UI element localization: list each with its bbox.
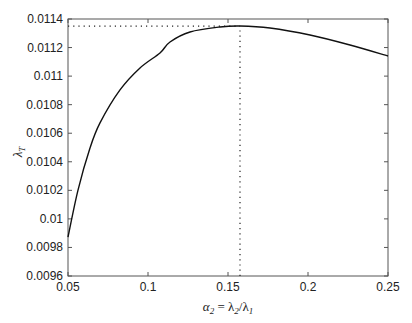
- y-tick-label: 0.01: [40, 212, 64, 226]
- y-axis-label: λT: [10, 146, 27, 159]
- y-tick-label: 0.0106: [26, 126, 63, 140]
- x-tick-label: 0.1: [140, 280, 157, 294]
- y-tick-label: 0.0108: [26, 98, 63, 112]
- y-tick-label: 0.0112: [27, 41, 63, 55]
- y-tick-label: 0.0114: [27, 12, 63, 26]
- y-tick-label: 0.0102: [26, 183, 63, 197]
- y-tick-label: 0.0098: [26, 240, 63, 254]
- line-chart: 0.050.10.150.20.25 0.00960.00980.010.010…: [0, 0, 412, 323]
- x-tick-label: 0.2: [300, 280, 317, 294]
- y-tick-label: 0.0104: [26, 155, 63, 169]
- plot-area: [68, 19, 388, 276]
- x-axis-label: α2 = λ2/λ1: [203, 299, 253, 316]
- x-tick-label: 0.25: [376, 280, 400, 294]
- y-tick-label: 0.0096: [26, 269, 63, 283]
- x-tick-label: 0.15: [216, 280, 240, 294]
- y-tick-label: 0.011: [34, 69, 63, 83]
